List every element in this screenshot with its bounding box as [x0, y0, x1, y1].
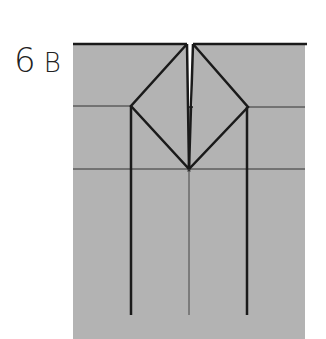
fold-diagram: [0, 0, 326, 339]
